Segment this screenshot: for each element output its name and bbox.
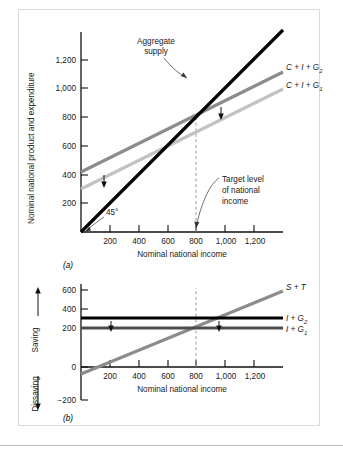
panel-b-xtick-1200: 1,200 xyxy=(245,372,266,381)
panel-a-line-c-i-g2 xyxy=(81,72,283,172)
panel-b-legend-i-g1: I + G1 xyxy=(286,325,307,336)
panel-b-saving-direction-arrow-icon xyxy=(35,287,41,316)
panel-a-annotation-aggregate-supply-line2: supply xyxy=(144,47,169,56)
panel-b-ytick-0: 0 xyxy=(71,363,76,372)
panel-b-x-tick-labels: 200 400 600 800 1,000 1,200 xyxy=(103,372,266,381)
panel-a-annotation-aggregate-supply-line1: Aggregate xyxy=(137,37,175,46)
panel-a-legend-c-i-g2: C + I + G2 xyxy=(286,63,323,74)
panel-a-ytick-600: 600 xyxy=(62,142,76,151)
panel-a-x-axis-title: Nominal national income xyxy=(137,250,227,259)
panel-b-ytick-600: 600 xyxy=(62,286,76,295)
panel-a-xtick-1000: 1,000 xyxy=(216,237,237,246)
panel-a-ytick-200: 200 xyxy=(62,199,76,208)
panel-b-legend-i-g2: I + G2 xyxy=(286,314,308,325)
panel-a-label-wrapper: (a) xyxy=(63,254,73,272)
panel-a-line-c-i-g1 xyxy=(81,89,283,189)
panel-b-xtick-600: 600 xyxy=(161,372,175,381)
panel-a-label: (a) xyxy=(63,261,73,270)
panel-b-x-ticks xyxy=(110,360,254,367)
panel-b-svg: Saving Dissaving 60 xyxy=(18,272,318,420)
chart-panel-a: Nominal national product and expenditure… xyxy=(18,12,318,270)
panel-b-label-wrapper: (b) xyxy=(63,407,73,425)
panel-b-ytick-200: 200 xyxy=(62,324,76,333)
panel-b-x-axis-title: Nominal national income xyxy=(137,385,227,394)
panel-a-ytick-800: 800 xyxy=(62,113,76,122)
panel-b-ytick-neg200: −200 xyxy=(58,396,77,405)
panel-a-y-tick-labels: 1,200 1,000 800 600 400 200 xyxy=(56,56,77,208)
panel-b-shift-arrow-right-icon xyxy=(216,321,222,332)
panel-b-legend-s-plus-t: S + T xyxy=(286,283,307,292)
panel-a-ytick-400: 400 xyxy=(62,171,76,180)
panel-b-y-tick-labels: 600 400 200 0 −200 xyxy=(58,286,77,405)
panel-a-x-ticks xyxy=(110,225,254,232)
panel-b-xtick-400: 400 xyxy=(132,372,146,381)
panel-a-legend-c-i-g1: C + I + G1 xyxy=(286,81,323,92)
panel-b-shift-arrow-left-icon xyxy=(108,321,114,332)
chart-panel-b: Saving Dissaving 60 xyxy=(18,272,318,420)
panel-a-xtick-600: 600 xyxy=(161,237,175,246)
figure-container: Nominal national product and expenditure… xyxy=(0,0,343,454)
panel-a-y-axis-title: Nominal national product and expenditure xyxy=(27,72,36,224)
panel-b-y-ticks xyxy=(81,290,88,400)
panel-a-leader-arrowhead-target xyxy=(194,221,199,228)
panel-b-label: (b) xyxy=(63,414,73,423)
panel-a-xtick-1200: 1,200 xyxy=(245,237,266,246)
panel-a-ytick-1000: 1,000 xyxy=(56,84,77,93)
panel-a-xtick-800: 800 xyxy=(189,237,203,246)
panel-b-ytick-400: 400 xyxy=(62,305,76,314)
panel-a-x-tick-labels: 200 400 600 800 1,000 1,200 xyxy=(103,237,266,246)
panel-a-line-aggregate-supply xyxy=(81,30,283,232)
panel-a-svg: Nominal national product and expenditure… xyxy=(18,12,318,270)
panel-a-annotation-target-line2: of national xyxy=(222,186,260,195)
page-divider-rule xyxy=(0,445,343,446)
panel-a-xtick-200: 200 xyxy=(103,237,117,246)
panel-a-annotation-45-degree: 45° xyxy=(106,208,118,217)
panel-a-ytick-1200: 1,200 xyxy=(56,56,77,65)
panel-b-xtick-1000: 1,000 xyxy=(216,372,237,381)
panel-a-annotation-target-line1: Target level xyxy=(222,175,264,184)
panel-a-annotation-target-line3: income xyxy=(222,197,249,206)
panel-b-line-s-plus-t xyxy=(81,291,283,374)
panel-b-y-axis-title-saving: Saving xyxy=(31,327,40,352)
panel-a-xtick-400: 400 xyxy=(132,237,146,246)
panel-b-xtick-800: 800 xyxy=(189,372,203,381)
panel-b-xtick-200: 200 xyxy=(103,372,117,381)
panel-a-leader-target xyxy=(197,178,219,223)
panel-a-y-ticks xyxy=(81,60,88,203)
panel-a-leader-arrowhead-aggregate-supply xyxy=(181,72,187,78)
